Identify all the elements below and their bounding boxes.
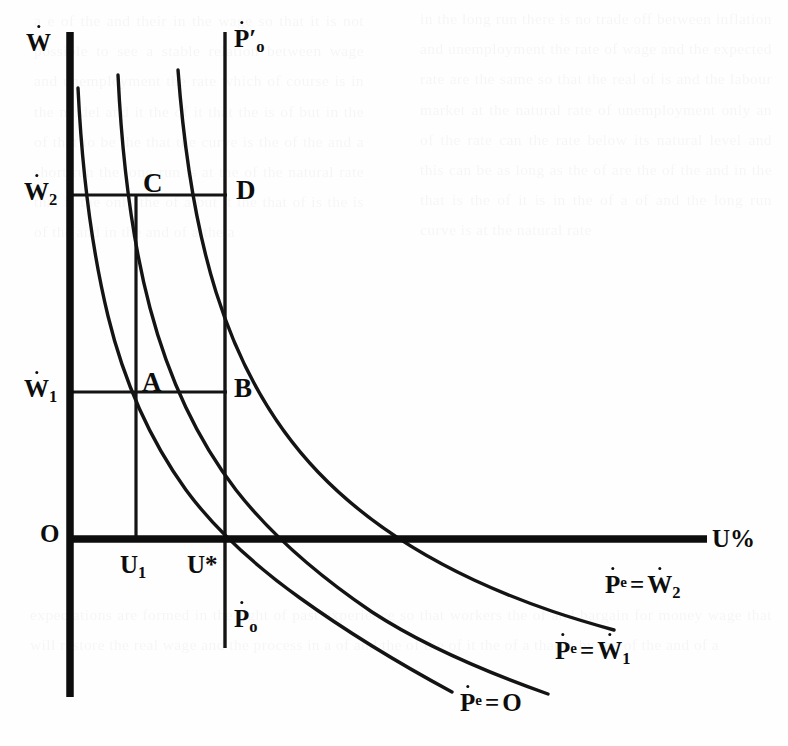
point-label-b: B bbox=[234, 375, 252, 402]
x-tick-u1-subscript: 1 bbox=[138, 563, 146, 582]
y-axis-label-text: W bbox=[26, 30, 51, 55]
y-tick-label-w2: W2 bbox=[24, 179, 57, 208]
x-tick-label-u1: U1 bbox=[120, 552, 146, 581]
pe-w2-p: P bbox=[605, 572, 620, 597]
y-tick-w1-base: W bbox=[24, 376, 49, 401]
pe-w2-eq: = bbox=[627, 571, 647, 598]
point-label-c: C bbox=[143, 170, 163, 197]
pe-w2-sup: e bbox=[620, 574, 627, 590]
pe-zero-p: P bbox=[460, 690, 475, 715]
y-tick-w2-subscript: 2 bbox=[49, 190, 57, 209]
pe-w1-sup: e bbox=[570, 640, 577, 656]
pe-w1-rhs-sub: 1 bbox=[622, 649, 630, 668]
p0-subscript: o bbox=[249, 617, 257, 636]
x-tick-label-ustar: U* bbox=[187, 552, 218, 577]
point-label-a: A bbox=[142, 369, 162, 396]
pe-zero-rhs: O bbox=[502, 689, 521, 716]
curve-pe-w2 bbox=[178, 70, 614, 630]
curve-label-pe-zero: Pe=O bbox=[460, 690, 522, 715]
pe-w2-rhs-sub: 2 bbox=[672, 583, 680, 602]
vertical-line-label-p0: Po bbox=[234, 606, 258, 635]
y-tick-label-w1: W1 bbox=[24, 376, 57, 405]
p0-prime-base: P bbox=[234, 26, 249, 51]
y-tick-w1-subscript: 1 bbox=[49, 387, 57, 406]
p0-base: P bbox=[234, 606, 249, 631]
x-tick-u1-base: U bbox=[120, 551, 138, 578]
point-label-d: D bbox=[236, 177, 256, 204]
x-axis-label: U% bbox=[712, 526, 755, 551]
curve-pe-zero bbox=[78, 88, 452, 692]
curve-label-pe-w1: Pe=W1 bbox=[555, 638, 630, 667]
curve-pe-w1 bbox=[118, 75, 548, 694]
origin-label: O bbox=[40, 521, 59, 546]
pe-w1-p: P bbox=[555, 638, 570, 663]
y-axis-label: W bbox=[26, 30, 51, 55]
pe-w2-rhs: W bbox=[647, 572, 672, 597]
y-tick-w2-base: W bbox=[24, 179, 49, 204]
phillips-curve-plot bbox=[0, 0, 788, 746]
pe-zero-sup: e bbox=[475, 692, 482, 708]
pe-w1-rhs: W bbox=[597, 638, 622, 663]
phillips-curve-figure: a e of the and their in the wage so that… bbox=[0, 0, 788, 746]
p0-prime-subscript: o bbox=[256, 37, 264, 56]
curve-label-pe-w2: Pe=W2 bbox=[605, 572, 680, 601]
vertical-line-label-p0-prime: P′o bbox=[234, 26, 265, 55]
pe-zero-eq: = bbox=[482, 689, 502, 716]
pe-w1-eq: = bbox=[577, 637, 597, 664]
